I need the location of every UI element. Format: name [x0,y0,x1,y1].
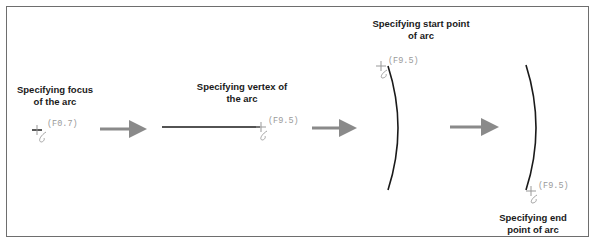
label-line: Specifying start point [358,18,484,30]
step-end-label: Specifying end point of arc [493,212,573,236]
label-line: Specifying end [493,212,573,224]
start-cursor-icon [376,61,387,78]
focus-coord: (F0.7) [47,119,78,129]
step-start-label: Specifying start point of arc [358,18,484,42]
vertex-cursor-icon [256,122,267,140]
step-focus-label: Specifying focus of the arc [14,84,96,108]
label-line: Specifying focus [14,84,96,96]
label-line: the arc [186,93,298,105]
label-line: point of arc [493,224,573,236]
label-line: of the arc [14,96,96,108]
step-vertex-label: Specifying vertex of the arc [186,81,298,105]
vertex-coord: (F9.5) [268,116,299,126]
arc-start [388,66,398,190]
arc-end [526,65,536,190]
focus-cursor-icon [32,125,46,142]
label-line: of arc [358,30,484,42]
end-coord: (F9.5) [538,181,569,191]
start-coord: (F9.5) [388,56,419,66]
end-cursor-icon [526,186,537,203]
label-line: Specifying vertex of [186,81,298,93]
